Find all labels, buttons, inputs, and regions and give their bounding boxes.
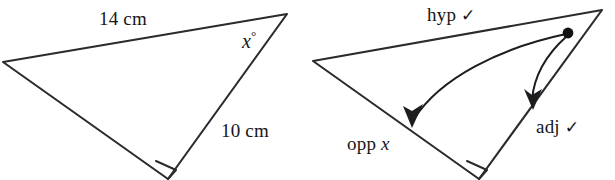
adjacent-check-icon: ✓ bbox=[565, 117, 579, 137]
hypotenuse-check-icon: ✓ bbox=[461, 5, 475, 25]
opposite-variable: x bbox=[381, 133, 390, 154]
arrow-to-adjacent-curve bbox=[532, 36, 567, 100]
arrow-to-adjacent-side bbox=[524, 36, 567, 110]
hypotenuse-label: hyp ✓ bbox=[427, 5, 476, 24]
adjacent-label: adj ✓ bbox=[536, 117, 579, 136]
adjacent-text: adj bbox=[536, 116, 560, 137]
arrow-to-opposite-curve bbox=[414, 34, 566, 119]
left-triangle-top-side-label: 14 cm bbox=[99, 9, 147, 28]
hypotenuse-text: hyp bbox=[427, 4, 456, 25]
degree-symbol: ° bbox=[251, 28, 256, 43]
arrow-to-opposite-arrowhead-icon bbox=[403, 104, 423, 128]
opposite-text: opp bbox=[347, 133, 376, 154]
left-triangle-right-side-label: 10 cm bbox=[221, 121, 269, 140]
opposite-label: opp x bbox=[347, 134, 390, 153]
angle-variable: x bbox=[242, 30, 251, 52]
geometry-figure: 14 cm 10 cm x° hyp ✓ opp x adj ✓ bbox=[0, 0, 615, 180]
figure-canvas bbox=[0, 0, 615, 180]
reference-angle-dot-icon bbox=[563, 28, 574, 39]
left-triangle-angle-label: x° bbox=[242, 29, 256, 51]
arrow-to-opposite-side bbox=[403, 34, 566, 128]
